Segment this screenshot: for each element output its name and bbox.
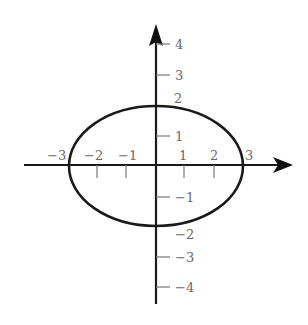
- y-tick-label-neg4: −4: [175, 280, 194, 295]
- x-tick-label-neg1: −1: [118, 148, 137, 163]
- x-tick-label-neg2: −2: [84, 148, 103, 163]
- x-tick-label-2: 2: [210, 148, 218, 163]
- y-tick-label-2: 2: [174, 91, 182, 106]
- x-axis: −3 −2 −1 1 2 3: [24, 148, 293, 178]
- y-tick-label-4: 4: [175, 37, 183, 52]
- y-tick-label-neg3: −3: [175, 250, 194, 265]
- x-tick-label-neg3: −3: [47, 148, 66, 163]
- y-tick-label-3: 3: [175, 68, 183, 83]
- y-tick-label-neg2: −2: [175, 227, 194, 242]
- x-tick-label-1: 1: [179, 148, 187, 163]
- x-tick-label-3: 3: [245, 148, 253, 163]
- y-tick-label-1: 1: [175, 129, 183, 144]
- y-tick-label-neg1: −1: [175, 190, 194, 205]
- ellipse-plot: −3 −2 −1 1 2 3 4 3 2 1 −1 −2 −3 −4: [0, 0, 308, 325]
